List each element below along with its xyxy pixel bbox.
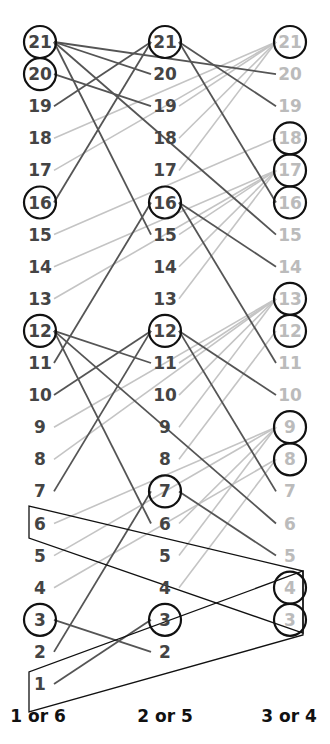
number-label: 11 (153, 353, 177, 373)
number-label: 2 (34, 642, 46, 662)
number-label: 8 (159, 449, 171, 469)
bipartite-diagram: 2120191817161514131211109876543212120191… (0, 0, 330, 744)
number-label: 3 (34, 610, 46, 630)
number-label: 18 (28, 128, 52, 148)
number-label: 8 (34, 449, 46, 469)
number-label: 8 (284, 449, 296, 469)
number-label: 21 (28, 32, 52, 52)
number-label: 18 (153, 128, 177, 148)
connection-line (54, 42, 151, 106)
number-label: 3 (284, 610, 296, 630)
connection-line (54, 331, 151, 492)
number-label: 15 (153, 225, 177, 245)
column-labels: 1 or 6 2 or 5 3 or 4 (10, 706, 317, 726)
connection-line (179, 331, 276, 492)
number-label: 16 (278, 193, 302, 213)
connection-line (54, 42, 151, 235)
number-label: 5 (34, 546, 46, 566)
connection-line (179, 42, 276, 170)
column-label-2: 2 or 5 (137, 706, 193, 726)
number-label: 9 (284, 417, 296, 437)
number-label: 12 (278, 321, 302, 341)
connection-line (179, 203, 276, 267)
number-label: 20 (153, 64, 177, 84)
number-label: 20 (278, 64, 302, 84)
number-label: 3 (159, 610, 171, 630)
number-label: 15 (28, 225, 52, 245)
connection-line (54, 74, 151, 106)
number-label: 2 (159, 642, 171, 662)
number-label: 19 (278, 96, 302, 116)
number-label: 4 (34, 578, 46, 598)
connection-line (54, 203, 151, 364)
number-label: 7 (34, 481, 46, 501)
number-label: 18 (278, 128, 302, 148)
number-label: 1 (34, 674, 46, 694)
number-label: 12 (28, 321, 52, 341)
connection-line (179, 491, 276, 555)
connection-line (54, 331, 151, 524)
number-label: 10 (278, 385, 302, 405)
number-label: 15 (278, 225, 302, 245)
number-label: 16 (153, 193, 177, 213)
number-label: 19 (28, 96, 52, 116)
number-label: 10 (28, 385, 52, 405)
column-label-3: 3 or 4 (261, 706, 317, 726)
column-label-1: 1 or 6 (10, 706, 66, 726)
number-label: 16 (28, 193, 52, 213)
number-label: 20 (28, 64, 52, 84)
connection-line (179, 203, 276, 364)
number-label: 14 (153, 257, 177, 277)
number-label: 11 (28, 353, 52, 373)
connection-line (179, 42, 276, 203)
number-label: 9 (159, 417, 171, 437)
number-label: 13 (28, 289, 52, 309)
number-label: 13 (278, 289, 302, 309)
number-label: 14 (28, 257, 52, 277)
number-label: 14 (278, 257, 302, 277)
number-label: 10 (153, 385, 177, 405)
number-label: 7 (284, 481, 296, 501)
number-label: 9 (34, 417, 46, 437)
number-label: 17 (28, 160, 52, 180)
number-label: 4 (284, 578, 296, 598)
connection-line (179, 331, 276, 459)
number-label: 12 (153, 321, 177, 341)
number-label: 19 (153, 96, 177, 116)
number-label: 5 (284, 546, 296, 566)
number-label: 21 (278, 32, 302, 52)
number-label: 6 (284, 514, 296, 534)
number-label: 17 (153, 160, 177, 180)
number-label: 6 (34, 514, 46, 534)
number-label: 5 (159, 546, 171, 566)
number-label: 6 (159, 514, 171, 534)
connection-line (179, 427, 276, 555)
number-label: 13 (153, 289, 177, 309)
connection-line (54, 620, 151, 652)
number-label: 4 (159, 578, 171, 598)
number-label: 7 (159, 481, 171, 501)
number-label: 11 (278, 353, 302, 373)
number-label: 17 (278, 160, 302, 180)
number-label: 21 (153, 32, 177, 52)
